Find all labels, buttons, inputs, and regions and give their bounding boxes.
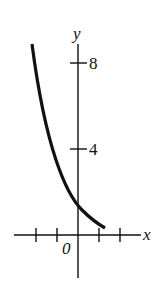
graph-canvas: y 8 4 x 0 [0,0,162,289]
y-axis-label: y [71,24,81,43]
y-tick-label-8: 8 [89,54,98,73]
x-axis-label: x [142,225,151,244]
origin-label: 0 [62,239,71,258]
y-tick-label-4: 4 [89,140,98,159]
